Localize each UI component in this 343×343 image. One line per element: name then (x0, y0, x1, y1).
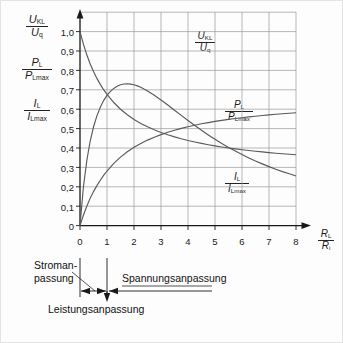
figure-root: UKL Uq PL PLmax IL ILmax 1,0 0,9 0,8 0,7… (0, 0, 343, 343)
arrow-current-left (81, 288, 90, 294)
region-brackets (72, 258, 212, 302)
axis-ticks (76, 32, 296, 230)
arrow-power-down (104, 293, 110, 302)
arrow-voltage-left (109, 288, 118, 294)
chart-svg (0, 0, 343, 343)
stromanpassung-leader (72, 272, 95, 291)
axis-lines (77, 9, 311, 229)
grid-lines (80, 12, 296, 225)
